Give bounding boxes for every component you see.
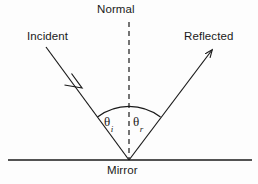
mirror-label: Mirror	[107, 164, 138, 176]
reflected-label: Reflected	[184, 30, 233, 42]
reflected-ray	[129, 50, 212, 160]
theta-subscript-r: r	[140, 124, 144, 134]
diagram-canvas	[0, 0, 258, 184]
theta-symbol-reflection: θ	[133, 114, 139, 129]
incident-label: Incident	[27, 30, 68, 42]
normal-label: Normal	[97, 3, 135, 15]
theta-symbol-incidence: θ	[104, 114, 110, 129]
incident-ray	[46, 47, 129, 160]
reflection-diagram: Normal Incident Reflected Mirror θi θr	[0, 0, 258, 184]
angle-of-reflection-label: θr	[133, 114, 143, 132]
theta-subscript-i: i	[111, 124, 114, 134]
angle-of-incidence-label: θi	[104, 114, 113, 132]
